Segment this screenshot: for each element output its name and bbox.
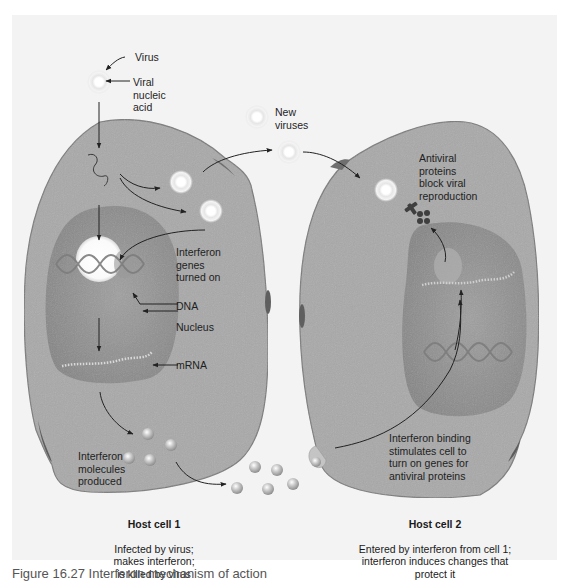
- interferon-molecule: [144, 454, 156, 466]
- label-new-viruses: New viruses: [275, 106, 308, 131]
- virus-particle: [374, 178, 398, 202]
- interferon-molecule: [231, 482, 243, 494]
- virus-particle: [87, 70, 111, 94]
- label-interferon-genes: Interferon genes turned on: [176, 246, 221, 284]
- host-cell-2-description: Entered by interferon from cell 1; inter…: [359, 543, 511, 580]
- label-antiviral-proteins: Antiviral proteins block viral reproduct…: [419, 152, 477, 202]
- label-viral-nucleic-acid: Viral nucleic acid: [133, 76, 166, 114]
- label-dna: DNA: [176, 300, 198, 313]
- interferon-molecule: [271, 464, 283, 476]
- label-mrna: mRNA: [176, 359, 207, 372]
- virus-particle: [199, 199, 223, 223]
- virus-particle: [277, 140, 301, 164]
- label-interferon-molecules: Interferon molecules produced: [78, 450, 125, 488]
- figure-caption: Figure 16.27 Interferon mechanism of act…: [12, 566, 267, 581]
- interferon-molecule: [287, 478, 299, 490]
- interferon-molecule: [249, 461, 261, 473]
- interferon-molecule: [165, 439, 177, 451]
- host-cell-1: [24, 120, 271, 493]
- host-cell-2-title: Host cell 2: [345, 518, 525, 531]
- label-interferon-binding: Interferon binding stimulates cell to tu…: [389, 432, 471, 482]
- label-virus: Virus: [135, 51, 159, 64]
- virus-particle: [169, 170, 193, 194]
- label-nucleus: Nucleus: [176, 321, 214, 334]
- interferon-molecule: [142, 428, 154, 440]
- virus-particle: [245, 105, 269, 129]
- interferon-molecule: [262, 483, 274, 495]
- host-cell-1-title: Host cell 1: [84, 518, 224, 531]
- host-cell-2-caption: Host cell 2 Entered by interferon from c…: [345, 505, 525, 580]
